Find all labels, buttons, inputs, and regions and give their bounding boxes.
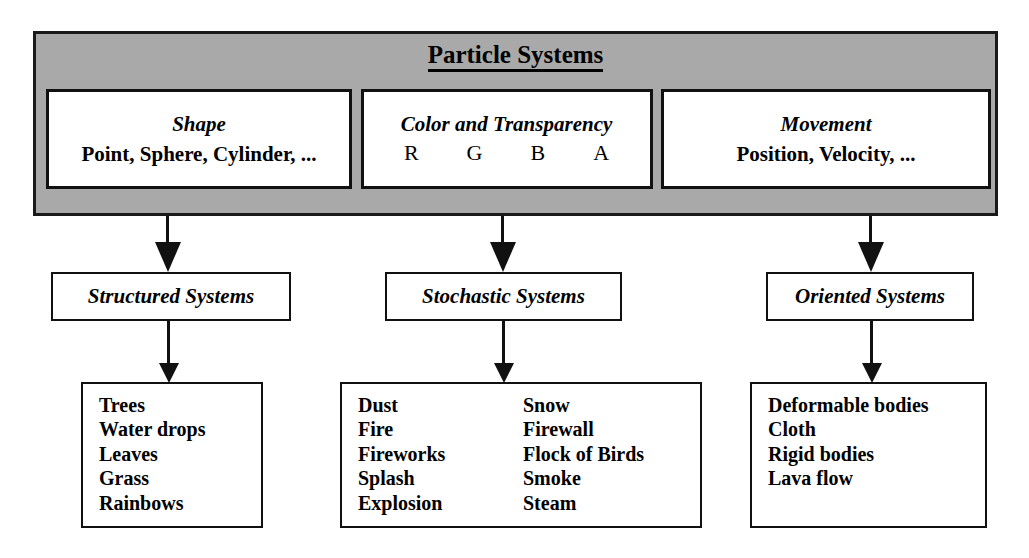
- channel-b: B: [531, 140, 546, 166]
- list-item: Snow: [523, 393, 644, 417]
- attribute-values-movement: Position, Velocity, ...: [736, 141, 915, 167]
- particle-systems-panel: Particle Systems Shape Point, Sphere, Cy…: [33, 31, 998, 216]
- arrow-oriented-to-examples: [862, 321, 882, 383]
- diagram-canvas: Particle Systems Shape Point, Sphere, Cy…: [0, 0, 1029, 558]
- example-column: Trees Water drops Leaves Grass Rainbows: [99, 393, 206, 515]
- category-box-stochastic: Stochastic Systems: [385, 272, 622, 321]
- category-box-oriented: Oriented Systems: [766, 272, 974, 321]
- arrow-structured-to-examples: [159, 321, 179, 383]
- channel-a: A: [593, 140, 609, 166]
- list-item: Splash: [358, 466, 523, 490]
- example-column: Dust Fire Fireworks Splash Explosion: [358, 393, 523, 515]
- list-item: Water drops: [99, 417, 206, 441]
- list-item: Smoke: [523, 466, 644, 490]
- list-item: Steam: [523, 491, 644, 515]
- list-item: Deformable bodies: [768, 393, 929, 417]
- list-item: Leaves: [99, 442, 206, 466]
- page-title-text: Particle Systems: [428, 41, 604, 72]
- list-item: Grass: [99, 466, 206, 490]
- attribute-box-shape: Shape Point, Sphere, Cylinder, ...: [46, 89, 352, 189]
- category-box-structured: Structured Systems: [51, 272, 291, 321]
- attribute-values-color: R G B A: [404, 140, 609, 166]
- arrow-stochastic-to-examples: [494, 321, 514, 383]
- example-box-structured: Trees Water drops Leaves Grass Rainbows: [81, 382, 263, 528]
- list-item: Explosion: [358, 491, 523, 515]
- attribute-row: Shape Point, Sphere, Cylinder, ... Color…: [46, 89, 991, 189]
- list-item: Fireworks: [358, 442, 523, 466]
- arrow-panel-to-structured: [155, 216, 181, 272]
- list-item: Rainbows: [99, 491, 206, 515]
- category-label-structured: Structured Systems: [88, 284, 254, 309]
- arrow-panel-to-stochastic: [490, 216, 516, 272]
- arrow-panel-to-oriented: [858, 216, 884, 272]
- list-item: Lava flow: [768, 466, 929, 490]
- attribute-title-movement: Movement: [781, 111, 872, 137]
- channel-g: G: [467, 140, 483, 166]
- attribute-title-shape: Shape: [172, 111, 226, 137]
- list-item: Dust: [358, 393, 523, 417]
- list-item: Trees: [99, 393, 206, 417]
- attribute-title-color: Color and Transparency: [401, 111, 613, 137]
- list-item: Cloth: [768, 417, 929, 441]
- example-box-stochastic: Dust Fire Fireworks Splash Explosion Sno…: [340, 382, 702, 528]
- attribute-values-shape: Point, Sphere, Cylinder, ...: [81, 141, 316, 167]
- category-label-stochastic: Stochastic Systems: [422, 284, 585, 309]
- list-item: Rigid bodies: [768, 442, 929, 466]
- list-item: Fire: [358, 417, 523, 441]
- attribute-box-color: Color and Transparency R G B A: [361, 89, 653, 189]
- attribute-box-movement: Movement Position, Velocity, ...: [661, 89, 991, 189]
- channel-r: R: [404, 140, 419, 166]
- example-column: Snow Firewall Flock of Birds Smoke Steam: [523, 393, 644, 515]
- list-item: Firewall: [523, 417, 644, 441]
- page-title: Particle Systems: [36, 41, 995, 69]
- example-box-oriented: Deformable bodies Cloth Rigid bodies Lav…: [750, 382, 987, 528]
- category-label-oriented: Oriented Systems: [795, 284, 945, 309]
- list-item: Flock of Birds: [523, 442, 644, 466]
- example-column: Deformable bodies Cloth Rigid bodies Lav…: [768, 393, 929, 491]
